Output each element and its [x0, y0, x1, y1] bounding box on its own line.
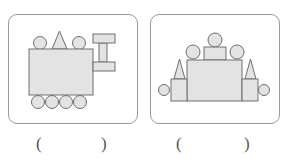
answer-2-close-paren: ) — [244, 134, 250, 154]
figure-2-shapes — [159, 33, 270, 101]
answer-1-close-paren: ) — [101, 134, 107, 154]
answer-1-open-paren: ( — [36, 134, 42, 154]
answer-2-open-paren: ( — [176, 134, 182, 154]
figure-1-shapes — [29, 31, 115, 109]
